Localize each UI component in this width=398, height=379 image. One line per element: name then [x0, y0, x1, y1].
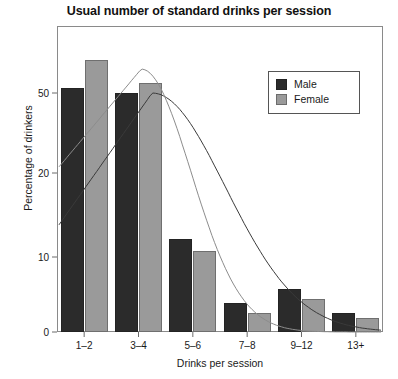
legend-label-female: Female: [294, 94, 329, 105]
legend-item-female: Female: [276, 92, 352, 107]
fit-curve-male: [59, 93, 381, 330]
chart-container: Usual number of standard drinks per sess…: [0, 0, 398, 379]
legend-label-male: Male: [294, 79, 317, 90]
tick-marks: [52, 93, 356, 337]
legend: Male Female: [268, 71, 360, 114]
legend-swatch-female-icon: [276, 94, 287, 105]
legend-swatch-male-icon: [276, 79, 287, 90]
legend-item-male: Male: [276, 77, 352, 92]
fit-curves-layer: [0, 0, 398, 379]
